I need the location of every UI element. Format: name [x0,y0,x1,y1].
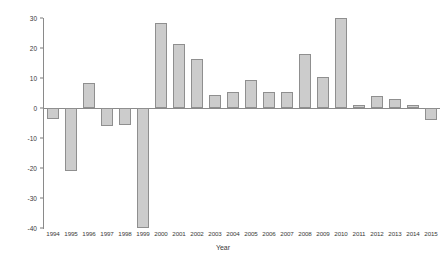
x-tick-label: 2007 [280,230,293,237]
y-tick-label: -40 [15,225,37,232]
bar [119,108,130,125]
bar [245,80,256,109]
x-tick-label: 2001 [172,230,185,237]
x-tick-label: 1999 [136,230,149,237]
x-tick-label: 2005 [244,230,257,237]
x-tick-label: 1994 [46,230,59,237]
x-tick-label: 1995 [64,230,77,237]
bar [191,59,202,109]
y-tick-label: -10 [15,135,37,142]
bar [425,108,436,120]
bar-chart: Percentage change 3020100-10-20-30-40 19… [0,0,446,259]
x-tick-label: 2004 [226,230,239,237]
y-tick-label: -20 [15,165,37,172]
bar [371,96,382,108]
x-tick-label: 2013 [388,230,401,237]
x-tick-label: 2003 [208,230,221,237]
bar [317,77,328,109]
bar [47,108,58,119]
bar [407,105,418,108]
x-tick-label: 1997 [100,230,113,237]
bar [389,99,400,108]
x-axis-tick-labels: 1994199519961997199819992000200120022003… [44,230,440,242]
x-tick-label: 2010 [334,230,347,237]
x-tick-label: 1998 [118,230,131,237]
x-tick-label: 2009 [316,230,329,237]
bar [209,95,220,109]
x-tick-label: 2002 [190,230,203,237]
y-axis-tick-labels: 3020100-10-20-30-40 [16,18,40,228]
x-tick-label: 2008 [298,230,311,237]
x-tick-label: 2014 [406,230,419,237]
bar [299,54,310,108]
plot-area [44,18,440,228]
bar [227,92,238,109]
x-tick-label: 2012 [370,230,383,237]
y-tick-label: 10 [15,75,37,82]
x-tick-label: 2011 [353,230,366,237]
bar [137,108,148,228]
y-tick-label: 30 [15,15,37,22]
bar [83,83,94,109]
bar [263,92,274,109]
y-tick-label: 20 [15,45,37,52]
x-tick-label: 1996 [82,230,95,237]
x-tick-label: 2000 [154,230,167,237]
bar [335,18,346,108]
x-tick-label: 2015 [424,230,437,237]
bar [155,23,166,109]
x-tick-label: 2006 [262,230,275,237]
y-tick-label: -30 [15,195,37,202]
bar [173,44,184,109]
bar [281,92,292,109]
bar [65,108,76,171]
bar [101,108,112,126]
y-tick-label: 0 [15,105,37,112]
bar [353,105,364,108]
x-axis-title: Year [0,244,446,251]
